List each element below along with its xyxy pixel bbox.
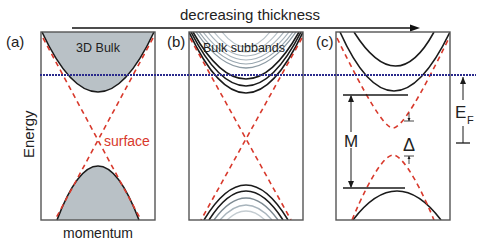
delta-label: Δ: [403, 135, 415, 155]
arrow-up-icon: [408, 156, 411, 159]
arrow-down-icon: [348, 181, 354, 188]
gapped-surface-upper: [337, 38, 449, 128]
title: decreasing thickness: [180, 6, 320, 23]
momentum-axis-label: momentum: [63, 225, 133, 241]
surface-state-line: [201, 38, 302, 220]
bulk-label: 3D Bulk: [76, 41, 121, 55]
arrow-up-icon: [460, 77, 466, 84]
subbands-label: Bulk subbands: [203, 41, 285, 55]
arrow-head-icon: [410, 25, 420, 32]
panel-b: (b) Bulk subbands: [167, 32, 303, 220]
band-structure-diagram: decreasing thickness (a) 3D Bulk surface…: [0, 0, 488, 244]
fermi-label: E: [455, 103, 466, 122]
surface-state-line: [190, 38, 291, 220]
surface-label: surface: [104, 133, 150, 149]
panel-a: (a) 3D Bulk surface Energy momentum: [6, 32, 155, 241]
valence-subband: [353, 191, 441, 220]
panel-c: (c) M Δ: [316, 32, 450, 220]
panel-c-tag: (c): [316, 33, 334, 50]
fermi-subscript: F: [467, 114, 474, 126]
conduction-subband: [354, 32, 434, 66]
arrow-down-icon: [408, 118, 411, 121]
conduction-subband: [340, 32, 450, 91]
energy-axis-label: Energy: [20, 110, 37, 158]
m-label: M: [344, 132, 358, 151]
panel-a-tag: (a): [6, 33, 24, 50]
arrow-up-icon: [348, 95, 354, 102]
panel-b-tag: (b): [167, 33, 185, 50]
